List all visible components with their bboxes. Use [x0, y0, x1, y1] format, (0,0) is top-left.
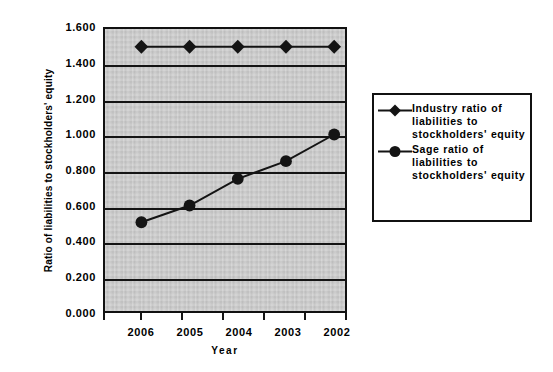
x-tick — [222, 313, 224, 320]
legend-label-industry: Industry ratio of liabilities to stockho… — [412, 102, 526, 140]
x-tick — [345, 313, 347, 320]
x-axis-title: Year — [103, 345, 347, 356]
x-tick — [103, 313, 105, 320]
legend-label-sage: Sage ratio of liabilities to stockholder… — [412, 143, 526, 181]
x-tick — [304, 313, 306, 320]
diamond-marker-icon — [378, 103, 412, 116]
legend-item-industry: Industry ratio of liabilities to stockho… — [378, 102, 526, 140]
x-tick — [263, 313, 265, 320]
chart-legend: Industry ratio of liabilities to stockho… — [372, 93, 532, 222]
x-tick — [181, 313, 183, 320]
circle-marker-icon — [378, 144, 412, 157]
legend-item-sage: Sage ratio of liabilities to stockholder… — [378, 143, 526, 181]
chart-figure: Ratio of liabilities to stockholders' eq… — [0, 0, 553, 372]
x-tick — [140, 313, 142, 320]
x-tick-label: 2002 — [307, 326, 367, 338]
